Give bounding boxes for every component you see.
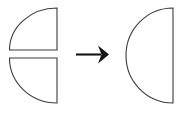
geometry-diagram: Two quarter circles combine into one sem…	[0, 0, 185, 116]
quarter-circle-bottom-icon	[10, 58, 58, 103]
semicircle-result-icon	[126, 8, 173, 103]
quarter-circle-top-icon	[10, 8, 58, 50]
diagram-canvas	[0, 0, 185, 116]
